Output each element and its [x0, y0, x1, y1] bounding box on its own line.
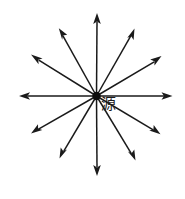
ray-down — [93, 96, 101, 176]
ray-up-left-shallow-shaft — [39, 60, 97, 96]
ray-down-left-steep — [60, 96, 97, 159]
ray-down-left-steep-shaft — [64, 96, 97, 151]
ray-up — [93, 13, 101, 96]
figure-container: 源 — [0, 0, 185, 199]
ray-up-right-shallow-shaft — [97, 62, 155, 96]
ray-up-shaft — [97, 22, 98, 96]
ray-up-right-steep — [97, 29, 135, 97]
radial-ray-diagram — [0, 0, 185, 199]
ray-up-right-shallow — [97, 56, 162, 96]
ray-up-right-steep-shaft — [97, 36, 131, 96]
ray-down-left-shallow-arrowhead — [31, 124, 42, 133]
ray-up-left-shallow-arrowhead — [31, 55, 43, 65]
ray-up-left-steep — [59, 28, 97, 96]
ray-up-right-steep-arrowhead — [127, 29, 134, 41]
ray-up-right-shallow-arrowhead — [150, 56, 161, 66]
ray-down-left-shallow-shaft — [39, 96, 97, 129]
ray-down-left-shallow — [31, 96, 97, 134]
ray-up-left-steep-arrowhead — [59, 28, 67, 40]
ray-down-left-steep-arrowhead — [60, 148, 68, 159]
ray-up-left-shallow — [31, 55, 97, 97]
ray-down-right-shallow-arrowhead — [149, 125, 160, 134]
ray-down-shaft — [97, 96, 98, 167]
source-point — [92, 92, 100, 100]
ray-up-left-steep-shaft — [63, 36, 97, 96]
ray-left — [19, 92, 97, 100]
source-label: 源 — [101, 97, 116, 112]
ray-down-right-steep-arrowhead — [128, 150, 136, 161]
